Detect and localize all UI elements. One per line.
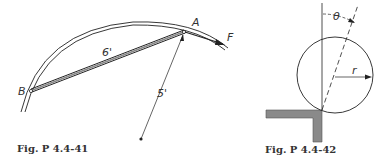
label-radius: 5' [157, 87, 167, 100]
label-point-b: B [18, 85, 26, 98]
label-force: F [227, 31, 234, 44]
rod-ab-fill [32, 32, 185, 91]
figure-caption: Fig. P 4.4-41 [17, 143, 88, 154]
pin-b [29, 89, 32, 92]
figure-caption: Fig. P 4.4-42 [265, 144, 336, 155]
label-rod-length: 6' [102, 46, 112, 59]
label-radius-r: r [352, 64, 358, 77]
angle-arrowhead [348, 18, 355, 23]
center-point [139, 137, 142, 140]
cylinder [297, 37, 373, 113]
figure-p4-4-41: A B F 6' 5' Fig. P 4.4-41 [17, 16, 234, 154]
label-theta: θ [333, 10, 340, 23]
radius-r-arrowhead [365, 75, 372, 80]
figure-p4-4-42: θ r Fig. P 4.4-42 [265, 3, 373, 155]
circular-track-inner [25, 25, 225, 112]
rod-ab-outer [31, 30, 184, 89]
corner-wall [266, 110, 322, 142]
rod-ab-inner [32, 33, 185, 92]
force-arrowhead [215, 39, 225, 45]
label-point-a: A [191, 16, 200, 29]
figures-canvas: A B F 6' 5' Fig. P 4.4-41 θ r Fig. P 4.4… [0, 0, 392, 162]
